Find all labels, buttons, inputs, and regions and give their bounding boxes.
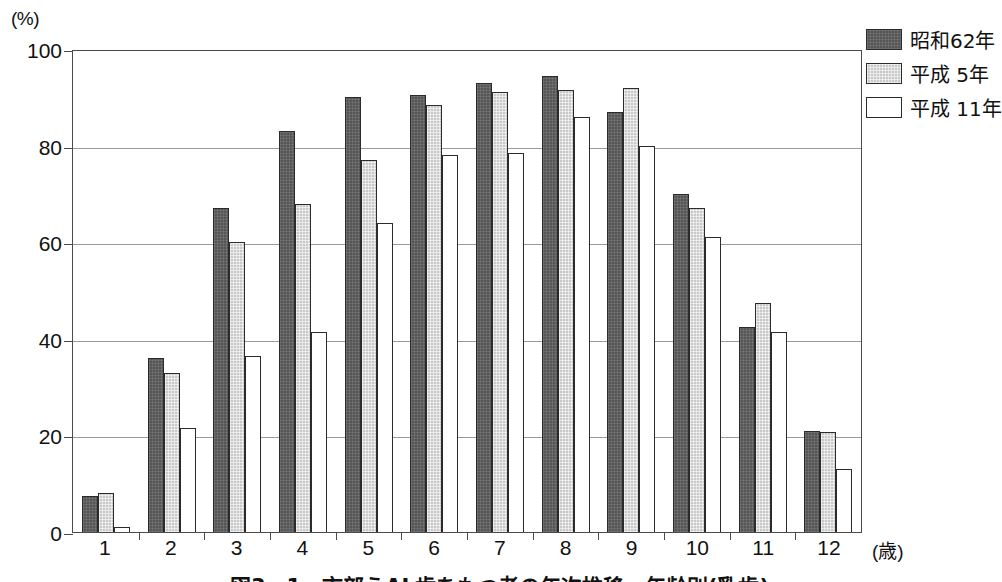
bar-group-age-10 <box>664 51 730 532</box>
bar-11-series-2[interactable] <box>755 303 771 532</box>
x-axis-tick-4: 4 <box>269 536 335 559</box>
y-axis-tick-100: 100 <box>2 40 62 61</box>
bar-8-series-1[interactable] <box>542 76 558 532</box>
x-axis-tick-labels: 123456789101112 <box>72 536 862 559</box>
y-tick-mark <box>64 148 73 149</box>
legend-label-3: 平成 11年 <box>910 93 1002 122</box>
y-tick-mark <box>64 244 73 245</box>
bar-9-series-3[interactable] <box>639 146 655 532</box>
bar-group-age-7 <box>467 51 533 532</box>
bar-group-age-8 <box>533 51 599 532</box>
bar-2-series-1[interactable] <box>148 358 164 532</box>
bar-7-series-2[interactable] <box>492 92 508 532</box>
bar-group-age-3 <box>204 51 270 532</box>
bar-7-series-1[interactable] <box>476 83 492 532</box>
figure-caption: 図3－1 市部うAL歯をもつ者の年次推移、年齢別(乳歯) <box>0 570 999 582</box>
legend-item-1[interactable]: 昭和62年 <box>866 22 999 56</box>
x-axis-unit-label: (歳) <box>872 536 904 563</box>
bar-group-age-9 <box>598 51 664 532</box>
y-tick-mark <box>64 51 73 52</box>
bar-5-series-1[interactable] <box>345 97 361 532</box>
legend-swatch-2 <box>866 63 902 84</box>
bar-4-series-2[interactable] <box>295 204 311 532</box>
bar-group-age-4 <box>270 51 336 532</box>
bar-group-age-11 <box>730 51 796 532</box>
legend-label-1: 昭和62年 <box>910 25 995 54</box>
bar-12-series-3[interactable] <box>836 469 852 532</box>
legend-label-2: 平成 5年 <box>910 59 989 88</box>
x-axis-tick-12: 12 <box>796 536 862 559</box>
x-axis-tick-8: 8 <box>533 536 599 559</box>
chart-legend: 昭和62年平成 5年平成 11年 <box>866 22 999 124</box>
y-axis-tick-80: 80 <box>2 136 62 157</box>
y-axis-tick-40: 40 <box>2 329 62 350</box>
bar-10-series-3[interactable] <box>705 237 721 532</box>
bar-2-series-2[interactable] <box>164 373 180 532</box>
x-axis-tick-1: 1 <box>72 536 138 559</box>
bar-1-series-1[interactable] <box>82 496 98 532</box>
x-axis-tick-11: 11 <box>730 536 796 559</box>
bar-10-series-2[interactable] <box>689 208 705 532</box>
bar-4-series-3[interactable] <box>311 332 327 532</box>
bar-1-series-3[interactable] <box>114 527 130 532</box>
bar-11-series-1[interactable] <box>739 327 755 532</box>
bar-7-series-3[interactable] <box>508 153 524 532</box>
bar-group-age-5 <box>336 51 402 532</box>
bar-6-series-2[interactable] <box>426 105 442 532</box>
bar-group-age-6 <box>401 51 467 532</box>
x-axis-tick-3: 3 <box>204 536 270 559</box>
bar-10-series-1[interactable] <box>673 194 689 532</box>
y-axis-tick-20: 20 <box>2 426 62 447</box>
x-axis-tick-10: 10 <box>664 536 730 559</box>
legend-swatch-1 <box>866 29 902 50</box>
y-tick-mark <box>64 534 73 535</box>
x-axis-tick-6: 6 <box>401 536 467 559</box>
y-axis-tick-60: 60 <box>2 233 62 254</box>
bar-11-series-3[interactable] <box>771 332 787 532</box>
bar-6-series-3[interactable] <box>442 155 458 532</box>
legend-item-3[interactable]: 平成 11年 <box>866 90 999 124</box>
bar-5-series-3[interactable] <box>377 223 393 532</box>
bar-4-series-1[interactable] <box>279 131 295 532</box>
y-axis-tick-0: 0 <box>2 523 62 544</box>
legend-item-2[interactable]: 平成 5年 <box>866 56 999 90</box>
bar-12-series-1[interactable] <box>804 431 820 532</box>
y-axis-unit-label: (%) <box>11 8 39 30</box>
x-axis-tick-5: 5 <box>335 536 401 559</box>
legend-swatch-3 <box>866 97 902 118</box>
bar-5-series-2[interactable] <box>361 160 377 532</box>
bar-3-series-1[interactable] <box>213 208 229 532</box>
bar-12-series-2[interactable] <box>820 432 836 532</box>
x-axis-tick-9: 9 <box>599 536 665 559</box>
bar-8-series-2[interactable] <box>558 90 574 532</box>
bar-1-series-2[interactable] <box>98 493 114 532</box>
bar-2-series-3[interactable] <box>180 428 196 532</box>
x-axis-tick-2: 2 <box>138 536 204 559</box>
bar-9-series-2[interactable] <box>623 88 639 532</box>
bar-3-series-2[interactable] <box>229 242 245 532</box>
plot-area <box>72 50 862 533</box>
bar-8-series-3[interactable] <box>574 117 590 532</box>
bar-3-series-3[interactable] <box>245 356 261 532</box>
y-tick-mark <box>64 341 73 342</box>
bar-group-age-2 <box>139 51 205 532</box>
y-tick-mark <box>64 437 73 438</box>
bar-6-series-1[interactable] <box>410 95 426 532</box>
bar-group-age-12 <box>795 51 861 532</box>
bar-9-series-1[interactable] <box>607 112 623 532</box>
bar-groups <box>73 51 861 532</box>
bar-group-age-1 <box>73 51 139 532</box>
x-axis-tick-7: 7 <box>467 536 533 559</box>
